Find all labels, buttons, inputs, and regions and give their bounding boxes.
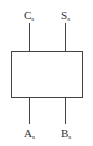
label-b-in: Bn bbox=[61, 128, 71, 143]
label-b-subscript: n bbox=[68, 134, 71, 140]
label-c-subscript: n bbox=[31, 16, 34, 22]
wire-b-in bbox=[65, 98, 66, 124]
label-a-in: An bbox=[24, 128, 35, 143]
label-s-subscript: n bbox=[67, 16, 70, 22]
wire-s-out bbox=[65, 23, 66, 51]
adder-block bbox=[11, 51, 83, 98]
wire-a-in bbox=[29, 98, 30, 124]
wire-c-out bbox=[29, 23, 30, 51]
label-a-name: A bbox=[24, 127, 32, 139]
label-a-subscript: n bbox=[32, 134, 35, 140]
